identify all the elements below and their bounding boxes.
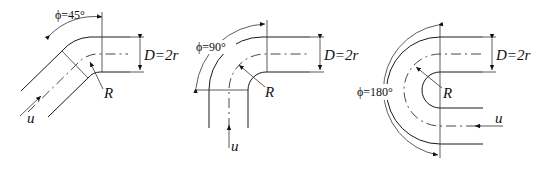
radius-label: R [442, 85, 452, 101]
velocity-label: u [27, 110, 35, 126]
radius-label: R [264, 84, 274, 100]
radius-label: R [103, 85, 113, 101]
center-line [28, 54, 128, 112]
velocity-label: u [231, 138, 239, 154]
diameter-label: D=2r [143, 47, 178, 63]
panel-bend-45: ϕ=45° D=2r R u [20, 8, 178, 126]
outer-wall [21, 37, 130, 91]
pipe-bend-diagrams: ϕ=45° D=2r R u ϕ=90° D=2r R [0, 0, 544, 171]
inner-wall [48, 72, 130, 117]
diameter-label: D=2r [495, 47, 530, 63]
radius-leader-arrow [239, 65, 265, 87]
radius-leader-arrow [416, 67, 442, 88]
velocity-label: u [495, 110, 503, 126]
angle-label: ϕ=180° [357, 85, 393, 99]
radius-leader-arrow [90, 62, 103, 89]
angle-label: ϕ=45° [55, 8, 85, 22]
diameter-label: D=2r [323, 47, 358, 63]
outer-wall [387, 37, 483, 144]
section-line [62, 51, 88, 78]
angle-label: ϕ=90° [196, 40, 226, 54]
panel-bend-90: ϕ=90° D=2r R u [194, 20, 358, 154]
inner-wall [422, 72, 483, 108]
panel-bend-180: ϕ=180° D=2r R u [356, 24, 530, 158]
